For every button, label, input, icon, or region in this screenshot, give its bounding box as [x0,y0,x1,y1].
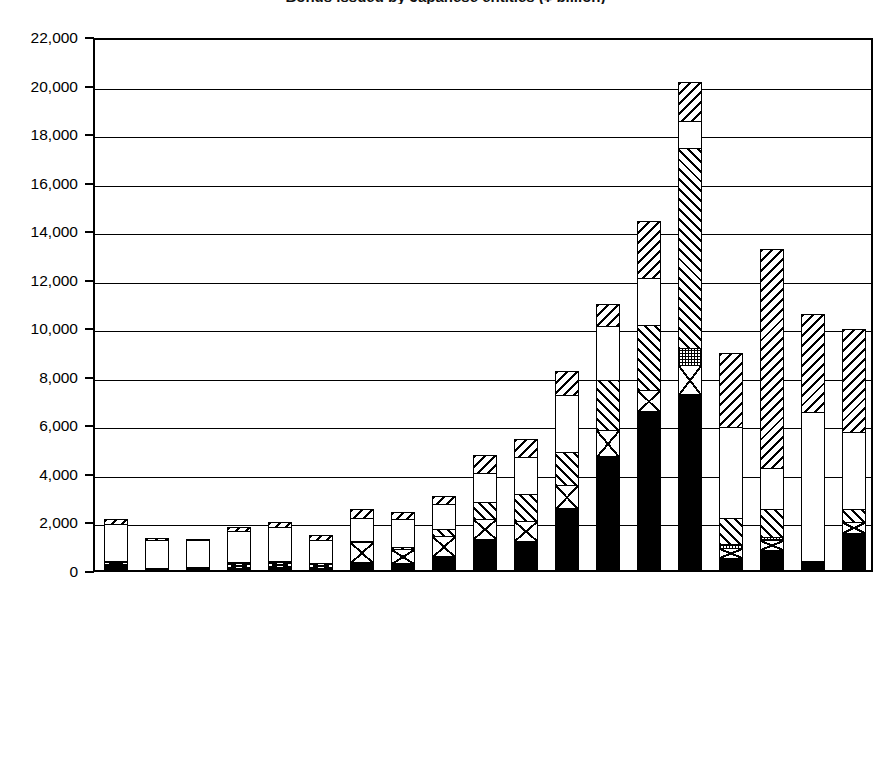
bar-segment-straight-foreign [473,455,497,474]
bar-segment-warrant-foreign [514,494,538,522]
bar-segment-warrant-foreign [596,380,620,431]
bar-stack [801,314,825,570]
bar-segment-straight-foreign [760,249,784,470]
bar-segment-convertible-domestic [801,565,825,572]
bar-stack [391,512,415,570]
bar-segment-straight-domestic [309,540,333,564]
y-axis-tick-label: 18,000 [0,126,78,144]
bar-segment-convertible-domestic [350,562,374,571]
bar-segment-straight-domestic [637,278,661,327]
bar-segment-warrant-foreign [719,518,743,546]
bar-segment-straight-domestic [145,540,169,569]
bar-segment-convertible-domestic [760,550,784,572]
bar-segment-convertible-foreign [350,542,374,563]
bar-segment-straight-domestic [473,473,497,503]
bar-segment-convertible-domestic [473,539,497,572]
bar-segment-straight-domestic [186,540,210,568]
chart-title: Bonds issued by Japanese entities (¥ bil… [0,0,891,4]
bar-stack [104,519,128,570]
y-axis-tick-label: 20,000 [0,78,78,96]
y-axis-tick-label: 16,000 [0,175,78,193]
bar-stack [309,535,333,570]
bar-segment-convertible-domestic [719,558,743,572]
bar-stack [227,527,251,570]
bar-segment-convertible-foreign [637,390,661,413]
bar-segment-straight-domestic [432,504,456,531]
bar-segment-convertible-domestic [678,394,702,571]
y-axis-tick-label: 2,000 [0,514,78,532]
x-axis [0,576,891,602]
bar-stack [842,329,866,570]
y-axis-tick-label: 6,000 [0,417,78,435]
bar-stack [555,371,579,570]
bar-segment-straight-domestic [678,121,702,150]
bar-segment-convertible-domestic [227,568,251,572]
bar-segment-warrant-foreign [555,452,579,487]
bar-segment-warrant-foreign [678,148,702,349]
bar-segment-warrant-foreign [637,325,661,391]
y-axis-tick-label: 12,000 [0,272,78,290]
bar-stack [268,522,292,570]
y-axis-tick-label: 8,000 [0,369,78,387]
bar-stack [760,249,784,570]
bar-segment-warrant-foreign [760,509,784,538]
y-axis-tick-label: 14,000 [0,223,78,241]
bar-segment-convertible-domestic [104,564,128,571]
bar-segment-convertible-foreign [678,365,702,395]
bar-segment-straight-domestic [391,519,415,548]
bar-segment-convertible-domestic [391,563,415,571]
bar-segment-straight-domestic [760,468,784,510]
bar-segment-convertible-foreign [473,519,497,540]
bar-segment-convertible-foreign [432,536,456,558]
bar-stack [186,539,210,570]
bar-stack [432,496,456,570]
bar-stack [473,455,497,570]
bar-segment-straight-domestic [842,432,866,510]
bar-segment-straight-foreign [514,439,538,458]
bar-segment-straight-domestic [801,412,825,562]
bar-segment-straight-foreign [555,371,579,396]
y-axis-tick-label: 4,000 [0,466,78,484]
bar-segment-convertible-domestic [186,569,210,571]
bar-segment-convertible-foreign [596,430,620,458]
bar-segment-convertible-domestic [514,541,538,571]
legend [0,628,891,775]
bar-segment-convertible-foreign [514,521,538,543]
bar-segment-straight-foreign [678,82,702,122]
bar-segment-straight-domestic [555,395,579,453]
bar-segment-straight-foreign [719,353,743,428]
bar-stack [637,221,661,570]
bar-stack [678,82,702,570]
plot-frame [93,38,873,572]
bar-segment-straight-foreign [801,314,825,414]
bar-segment-convertible-domestic [268,567,292,571]
bar-segment-convertible-domestic [842,533,866,572]
bar-segment-straight-domestic [596,326,620,382]
bar-segment-convertible-domestic [309,568,333,572]
bar-segment-convertible-domestic [637,411,661,571]
bar-stack [514,439,538,570]
bar-segment-convertible-domestic [555,508,579,571]
plot-area [93,38,873,572]
bar-series-group [95,40,871,570]
bar-segment-straight-domestic [104,524,128,563]
bar-segment-convertible-domestic [145,569,169,571]
y-axis-tick-label: 10,000 [0,320,78,338]
y-axis-tick-label: 22,000 [0,29,78,47]
bar-segment-convertible-foreign [391,549,415,565]
bar-segment-straight-foreign [842,329,866,433]
bar-stack [719,353,743,570]
bar-segment-straight-domestic [514,457,538,496]
bar-segment-straight-foreign [596,304,620,327]
bar-segment-straight-domestic [350,518,374,542]
bar-stack [350,509,374,570]
bar-stack [596,304,620,570]
bar-segment-straight-domestic [268,527,292,562]
bar-segment-convertible-domestic [596,456,620,571]
bar-segment-warrant-domestic [678,348,702,366]
bar-segment-warrant-foreign [473,502,497,520]
bar-segment-convertible-domestic [432,556,456,571]
bar-segment-convertible-foreign [555,485,579,509]
bar-stack [145,538,169,570]
bar-segment-straight-domestic [719,427,743,519]
